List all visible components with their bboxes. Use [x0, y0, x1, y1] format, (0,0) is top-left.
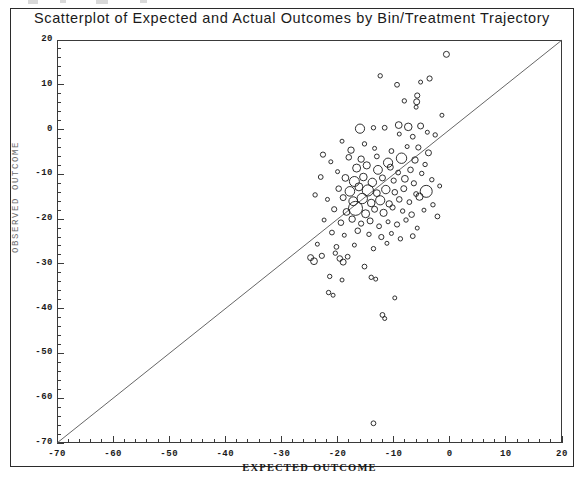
- scatterplot-figure: Scatterplot of Expected and Actual Outco…: [0, 0, 582, 479]
- x-tick-label: -70: [34, 449, 80, 459]
- y-tick-label: -10: [13, 168, 53, 178]
- x-tick-label: -40: [202, 449, 248, 459]
- x-tick-label: -60: [90, 449, 136, 459]
- y-tick-label: -70: [13, 437, 53, 447]
- x-tick-label: 10: [483, 449, 529, 459]
- y-tick-label: -40: [13, 303, 53, 313]
- plot-area-frame: [57, 40, 562, 443]
- top-edge-artifact: [0, 0, 582, 7]
- x-axis-tick-labels: -70-60-50-40-30-20-1001020: [0, 449, 582, 465]
- y-tick-label: 0: [13, 124, 53, 134]
- x-tick-label: -30: [258, 449, 304, 459]
- y-axis-tick-labels: 20100-10-20-30-40-50-60-70: [8, 0, 53, 479]
- chart-title: Scatterplot of Expected and Actual Outco…: [10, 10, 574, 26]
- x-tick-label: 20: [539, 449, 582, 459]
- y-tick-label: -60: [13, 392, 53, 402]
- y-tick-label: 10: [13, 79, 53, 89]
- x-tick-label: 0: [427, 449, 473, 459]
- x-tick-label: -50: [146, 449, 192, 459]
- x-tick-label: -10: [371, 449, 417, 459]
- y-tick-label: 20: [13, 34, 53, 44]
- y-tick-label: -50: [13, 347, 53, 357]
- x-tick-label: -20: [315, 449, 361, 459]
- y-tick-label: -30: [13, 258, 53, 268]
- y-tick-label: -20: [13, 213, 53, 223]
